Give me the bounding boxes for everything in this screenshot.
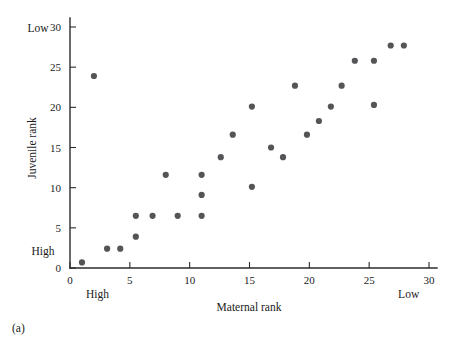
- scatter-point: [280, 154, 286, 160]
- scatter-point: [371, 102, 377, 108]
- y-tick-label: 10: [50, 182, 62, 194]
- scatter-point: [371, 58, 377, 64]
- plot-axes: [70, 18, 437, 268]
- y-axis-high-end-label: High: [32, 245, 55, 258]
- scatter-point: [199, 213, 205, 219]
- x-axis-low-end-label: Low: [398, 288, 420, 300]
- scatter-point: [117, 246, 123, 252]
- x-axis-title: Maternal rank: [217, 301, 282, 313]
- scatter-point: [249, 103, 255, 109]
- scatter-plot-svg: 051015202530 051015202530 Juvenile rank …: [0, 0, 463, 339]
- scatter-point: [91, 73, 97, 79]
- scatter-point: [352, 58, 358, 64]
- scatter-point: [268, 144, 274, 150]
- x-tick-label: 0: [67, 274, 73, 286]
- scatter-point: [388, 42, 394, 48]
- y-axis-title: Juvenile rank: [26, 117, 38, 179]
- x-tick-label: 5: [127, 274, 133, 286]
- scatter-point: [316, 118, 322, 124]
- x-axis-high-end-label: High: [86, 288, 109, 301]
- y-tick-label: 30: [50, 21, 62, 33]
- scatter-point: [104, 246, 110, 252]
- scatter-point: [328, 103, 334, 109]
- scatter-point: [339, 83, 345, 89]
- scatter-point: [149, 213, 155, 219]
- scatter-point: [79, 259, 85, 265]
- scatter-point: [401, 42, 407, 48]
- x-tick-label: 30: [424, 274, 436, 286]
- x-axis-ticks: 051015202530: [67, 262, 435, 286]
- y-tick-label: 25: [50, 61, 62, 73]
- scatter-point: [199, 172, 205, 178]
- y-tick-label: 20: [50, 101, 62, 113]
- scatter-point: [218, 154, 224, 160]
- x-tick-label: 25: [364, 274, 376, 286]
- x-tick-label: 10: [184, 274, 196, 286]
- figure-caption: (a): [12, 322, 25, 335]
- y-axis-ticks: 051015202530: [50, 21, 76, 274]
- scatter-point: [133, 213, 139, 219]
- scatter-point: [175, 213, 181, 219]
- scatter-point: [304, 132, 310, 138]
- y-tick-label: 0: [56, 262, 62, 274]
- y-axis-low-end-label: Low: [27, 22, 49, 34]
- y-tick-label: 15: [50, 142, 62, 154]
- scatter-point: [230, 132, 236, 138]
- x-tick-label: 15: [244, 274, 256, 286]
- data-points-layer: [79, 42, 407, 265]
- scatter-point: [292, 83, 298, 89]
- y-tick-label: 5: [56, 222, 62, 234]
- scatter-point: [133, 234, 139, 240]
- scatter-point: [249, 184, 255, 190]
- scatter-point: [199, 192, 205, 198]
- scatter-plot-figure: 051015202530 051015202530 Juvenile rank …: [0, 0, 463, 339]
- scatter-point: [163, 172, 169, 178]
- x-tick-label: 20: [304, 274, 316, 286]
